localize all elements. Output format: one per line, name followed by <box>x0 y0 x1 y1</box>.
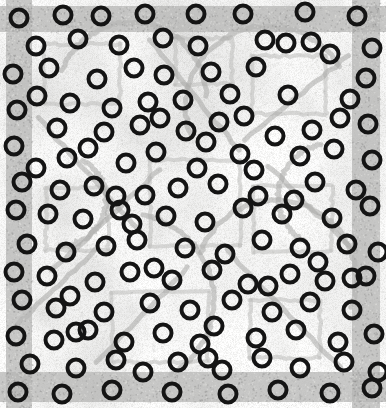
pattern-background-canvas <box>0 0 386 408</box>
scan-image-container <box>0 0 386 408</box>
